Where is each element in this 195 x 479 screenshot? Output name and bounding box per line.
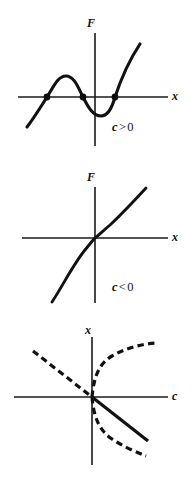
panel-1-plot xyxy=(0,0,195,155)
panel-1-vertical-axis-label: F xyxy=(87,17,95,29)
panel-3-vertical-axis-label: x xyxy=(85,324,91,336)
panel-1-condition-label: c>0 xyxy=(112,121,134,134)
root-dot-right xyxy=(112,94,119,101)
branch-stable-solid xyxy=(92,397,148,441)
bifurcation-figure: F x c>0 F x c<0 xyxy=(0,0,195,479)
panel-bifurcation-diagram: x c xyxy=(0,313,195,479)
branch-lower-right-dashed xyxy=(92,397,146,456)
panel-1-condition-variable: c xyxy=(112,120,118,134)
panel-1-condition-value: 0 xyxy=(127,120,134,134)
cubic-curve xyxy=(27,44,140,127)
root-dot-middle xyxy=(80,94,87,101)
panel-3-horizontal-axis-label: c xyxy=(172,390,177,402)
panel-2-vertical-axis-label: F xyxy=(87,171,95,183)
panel-cubic-c-negative: F x c<0 xyxy=(0,155,195,313)
branch-upper-right-dashed xyxy=(92,343,155,397)
panel-2-condition-relation: < xyxy=(119,280,126,294)
panel-2-condition-value: 0 xyxy=(127,280,134,294)
panel-2-plot xyxy=(0,155,195,313)
panel-2-condition-variable: c xyxy=(112,280,118,294)
panel-cubic-c-positive: F x c>0 xyxy=(0,0,195,155)
panel-3-plot xyxy=(0,313,195,479)
branch-upper-left-dashed xyxy=(33,351,92,397)
root-dot-left xyxy=(44,94,51,101)
panel-2-condition-label: c<0 xyxy=(112,281,134,294)
panel-1-horizontal-axis-label: x xyxy=(172,90,178,102)
panel-1-condition-relation: > xyxy=(119,120,126,134)
panel-2-horizontal-axis-label: x xyxy=(172,231,178,243)
